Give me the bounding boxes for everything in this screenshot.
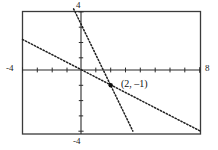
x-axis-max-label: 8: [205, 64, 210, 73]
intersection-point-label: (2, –1): [121, 79, 148, 89]
x-axis-min-label: -4: [6, 64, 14, 73]
intersection-point-marker: [109, 83, 113, 87]
coordinate-plane-svg: [0, 0, 218, 150]
graph-figure: 4 -4 8 -4 (2, –1): [0, 0, 218, 150]
y-axis-min-label: -4: [73, 137, 81, 146]
plot-frame: [23, 12, 201, 135]
y-axis-max-label: 4: [76, 1, 81, 10]
